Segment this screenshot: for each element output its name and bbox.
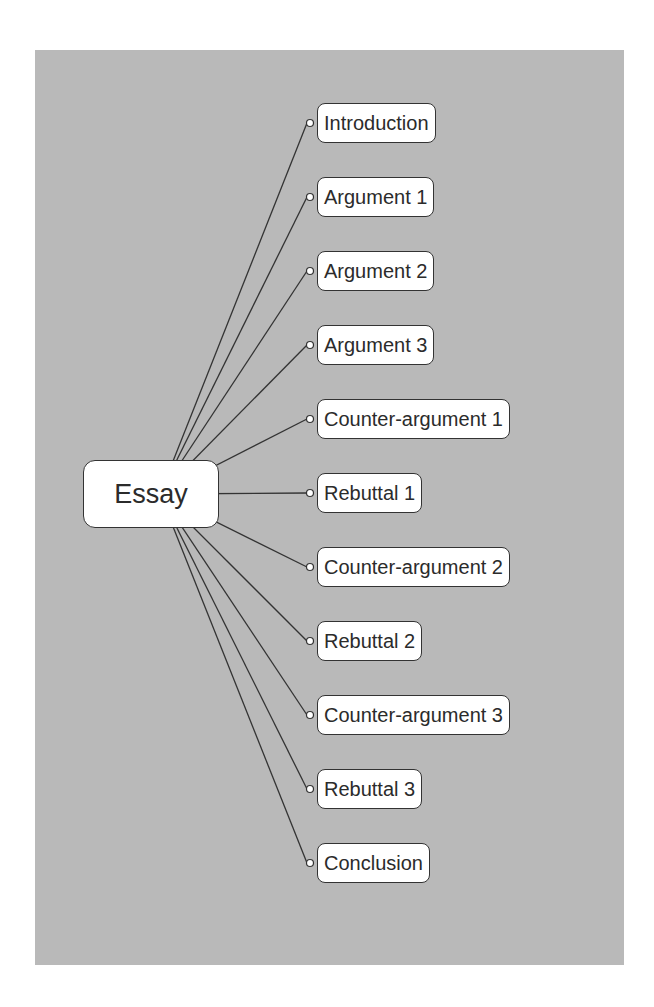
child-node[interactable]: Counter-argument 2 <box>317 547 510 587</box>
child-node[interactable]: Counter-argument 3 <box>317 695 510 735</box>
child-node-label: Argument 2 <box>324 260 427 283</box>
child-node[interactable]: Argument 2 <box>317 251 434 291</box>
child-node-label: Counter-argument 1 <box>324 408 503 431</box>
child-node[interactable]: Counter-argument 1 <box>317 399 510 439</box>
child-node-label: Argument 1 <box>324 186 427 209</box>
root-node-label: Essay <box>114 479 188 510</box>
root-node-essay[interactable]: Essay <box>83 460 219 528</box>
child-node[interactable]: Argument 1 <box>317 177 434 217</box>
child-node-label: Rebuttal 3 <box>324 778 415 801</box>
child-node[interactable]: Argument 3 <box>317 325 434 365</box>
child-node[interactable]: Rebuttal 3 <box>317 769 422 809</box>
child-node-label: Introduction <box>324 112 429 135</box>
child-node-label: Counter-argument 2 <box>324 556 503 579</box>
child-node-label: Counter-argument 3 <box>324 704 503 727</box>
child-node[interactable]: Rebuttal 1 <box>317 473 422 513</box>
child-node[interactable]: Conclusion <box>317 843 430 883</box>
child-node-label: Rebuttal 1 <box>324 482 415 505</box>
child-node-label: Rebuttal 2 <box>324 630 415 653</box>
child-node[interactable]: Introduction <box>317 103 436 143</box>
child-node[interactable]: Rebuttal 2 <box>317 621 422 661</box>
child-node-label: Argument 3 <box>324 334 427 357</box>
child-node-label: Conclusion <box>324 852 423 875</box>
